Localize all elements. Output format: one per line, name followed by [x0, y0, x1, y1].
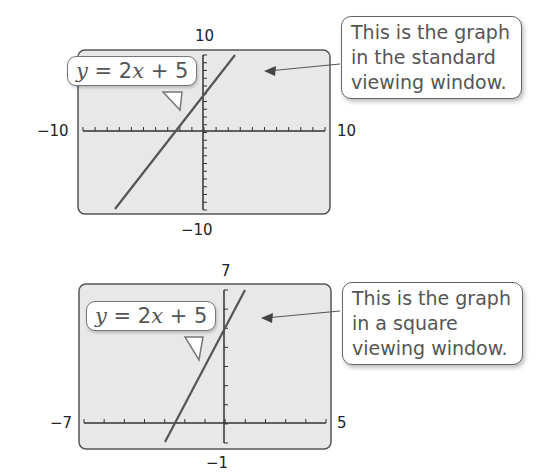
equation-y: y [76, 59, 88, 83]
y-min-label: −1 [206, 454, 228, 472]
equation-label: y = 2x + 5 [86, 301, 216, 331]
square-window-callout: This is the graph in a square viewing wi… [342, 282, 523, 365]
equation-rest: + 5 [144, 59, 188, 83]
equation-eq: = 2 [88, 59, 132, 83]
equation-rest: + 5 [163, 304, 207, 328]
x-min-label: −10 [37, 122, 69, 140]
y-min-label: −10 [181, 221, 213, 239]
standard-window-panel: 10 −10 −10 10 y = 2x + 5 This is the gra… [0, 0, 550, 240]
equation-x: x [132, 59, 144, 83]
y-max-label: 10 [195, 27, 214, 45]
y-max-label: 7 [221, 262, 231, 280]
square-window-panel: 7 −1 −7 5 y = 2x + 5 This is the graph i… [0, 240, 550, 476]
x-min-label: −7 [50, 414, 72, 432]
x-max-label: 10 [337, 122, 356, 140]
equation-x: x [151, 304, 163, 328]
standard-window-callout: This is the graph in the standard viewin… [341, 16, 522, 99]
equation-label: y = 2x + 5 [67, 56, 197, 86]
equation-eq: = 2 [107, 304, 151, 328]
equation-y: y [95, 304, 107, 328]
x-max-label: 5 [337, 414, 347, 432]
